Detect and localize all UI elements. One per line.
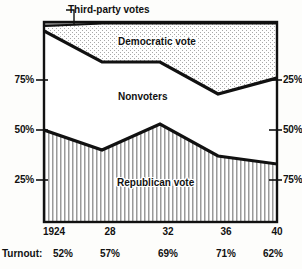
x-axis-label-40: 40 — [259, 226, 295, 237]
third-party-callout-label: Third-party votes — [68, 4, 150, 15]
vote-composition-chart: Third-party votes 75% 50% 25% 25% 50% 75… — [0, 0, 302, 269]
right-axis-label-25: 25% — [283, 74, 302, 85]
turnout-value-1924: 52% — [43, 248, 83, 259]
x-axis-label-36: 36 — [208, 226, 244, 237]
turnout-row-label: Turnout: — [2, 248, 42, 259]
x-axis-label-28: 28 — [92, 226, 128, 237]
turnout-value-40: 62% — [255, 248, 291, 259]
turnout-value-32: 69% — [150, 248, 186, 259]
republican-band-label: Republican vote — [117, 177, 194, 188]
left-axis-label-25: 25% — [2, 174, 34, 185]
left-axis-label-50: 50% — [2, 124, 34, 135]
right-axis-label-50: 50% — [283, 124, 302, 135]
left-axis-label-75: 75% — [2, 74, 34, 85]
chart-bands — [44, 22, 277, 222]
turnout-value-36: 71% — [208, 248, 244, 259]
right-axis-label-75: 75% — [283, 174, 302, 185]
nonvoters-band-label: Nonvoters — [118, 91, 167, 102]
turnout-value-28: 57% — [92, 248, 128, 259]
x-axis-label-1924: 1924 — [34, 226, 74, 237]
democratic-band-label: Democratic vote — [118, 36, 196, 47]
x-axis-label-32: 32 — [150, 226, 186, 237]
